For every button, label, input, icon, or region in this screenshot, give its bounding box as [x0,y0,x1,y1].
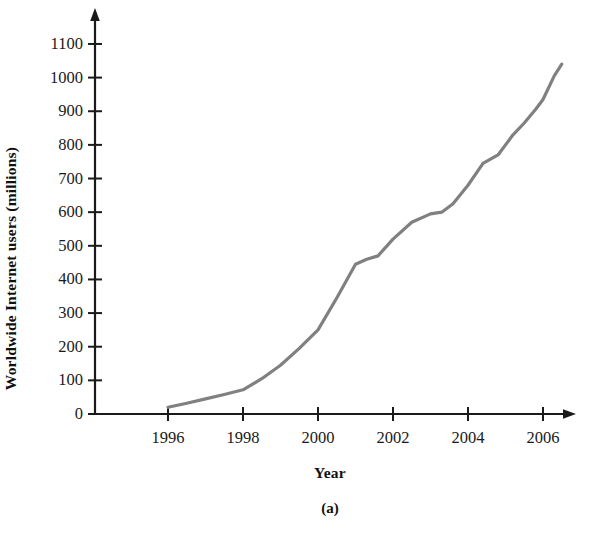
y-axis-tick-label: 900 [27,101,83,121]
y-axis-tick-label: 0 [27,404,83,424]
y-axis-tick-label: 800 [27,135,83,155]
y-axis-tick-label: 700 [27,169,83,189]
x-axis-tick-label: 2006 [513,428,573,448]
y-axis-tick-label: 200 [27,337,83,357]
internet-users-line-chart: 010020030040050060070080090010001100 199… [0,0,594,537]
data-series-group [168,64,562,407]
x-axis-tick-label: 1996 [138,428,198,448]
y-axis-tick-label: 100 [27,370,83,390]
y-axis-tick-label: 500 [27,236,83,256]
chart-plot-area [0,0,594,537]
figure-caption: (a) [95,500,565,517]
data-line-worldwide-internet-users [168,64,562,407]
x-axis [95,407,576,421]
y-axis-title: Worldwide Internet users (millions) [0,0,22,537]
y-axis-tick-label: 1000 [27,68,83,88]
x-axis-title: Year [95,464,565,482]
x-axis-tick-label: 2002 [363,428,423,448]
x-axis-tick-label: 1998 [213,428,273,448]
y-axis [88,8,102,414]
y-axis-tick-label: 1100 [27,34,83,54]
y-axis-tick-label: 400 [27,269,83,289]
y-axis-tick-label: 300 [27,303,83,323]
x-axis-tick-label: 2004 [438,428,498,448]
y-axis-tick-label: 600 [27,202,83,222]
x-axis-tick-label: 2000 [288,428,348,448]
